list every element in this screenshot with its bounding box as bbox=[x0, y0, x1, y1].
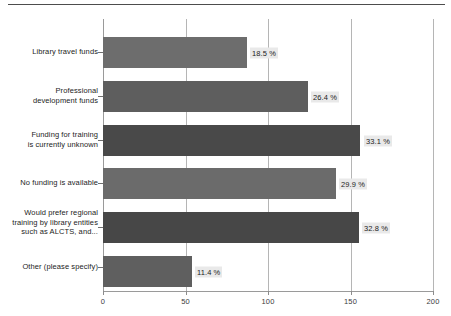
category-label-professional-development-funds: Professional development funds bbox=[33, 86, 98, 105]
category-label-library-travel-funds: Library travel funds bbox=[32, 47, 98, 57]
category-label-would-prefer-regional-training: Would prefer regional training by librar… bbox=[12, 208, 98, 237]
bar-row: 18.5 % bbox=[103, 37, 433, 68]
value-label-other-please-specify: 11.4 % bbox=[195, 266, 222, 277]
x-tick-mark-150 bbox=[351, 291, 352, 295]
x-tick-mark-200 bbox=[433, 291, 434, 295]
bar-funding-for-training-unknown[interactable] bbox=[103, 125, 360, 156]
x-tick-label-0: 0 bbox=[101, 297, 105, 306]
bar-row: 29.9 % bbox=[103, 168, 433, 199]
value-label-no-funding-available: 29.9 % bbox=[339, 178, 367, 189]
category-label-no-funding-available: No funding is available bbox=[20, 178, 98, 188]
x-tick-label-200: 200 bbox=[426, 297, 439, 306]
x-tick-mark-0 bbox=[103, 291, 104, 295]
bar-chart-figure: Library travel funds Professional develo… bbox=[0, 0, 451, 316]
gridline-200 bbox=[433, 19, 434, 291]
top-divider-rule bbox=[8, 4, 445, 5]
x-tick-label-100: 100 bbox=[261, 297, 274, 306]
bar-row: 33.1 % bbox=[103, 125, 433, 156]
category-label-other-please-specify: Other (please specify) bbox=[22, 262, 98, 272]
bar-other-please-specify[interactable] bbox=[103, 256, 192, 287]
x-tick-label-50: 50 bbox=[181, 297, 190, 306]
bar-professional-development-funds[interactable] bbox=[103, 81, 308, 112]
bar-row: 32.8 % bbox=[103, 212, 433, 243]
value-label-library-travel-funds: 18.5 % bbox=[250, 47, 278, 58]
value-label-would-prefer-regional-training: 32.8 % bbox=[362, 222, 390, 233]
bar-library-travel-funds[interactable] bbox=[103, 37, 247, 68]
x-tick-mark-100 bbox=[268, 291, 269, 295]
category-label-funding-for-training-unknown: Funding for training is currently unknow… bbox=[28, 130, 98, 149]
bar-no-funding-available[interactable] bbox=[103, 168, 336, 199]
value-label-funding-for-training-unknown: 33.1 % bbox=[364, 135, 392, 146]
plot-area: 18.5 % 26.4 % 33.1 % 29.9 % 32.8 % 11.4 … bbox=[103, 19, 433, 291]
x-tick-label-150: 150 bbox=[344, 297, 357, 306]
bar-row: 11.4 % bbox=[103, 256, 433, 287]
bar-row: 26.4 % bbox=[103, 81, 433, 112]
x-tick-mark-50 bbox=[186, 291, 187, 295]
value-label-professional-development-funds: 26.4 % bbox=[311, 91, 339, 102]
bar-would-prefer-regional-training[interactable] bbox=[103, 212, 359, 243]
category-axis-labels: Library travel funds Professional develo… bbox=[0, 19, 98, 291]
